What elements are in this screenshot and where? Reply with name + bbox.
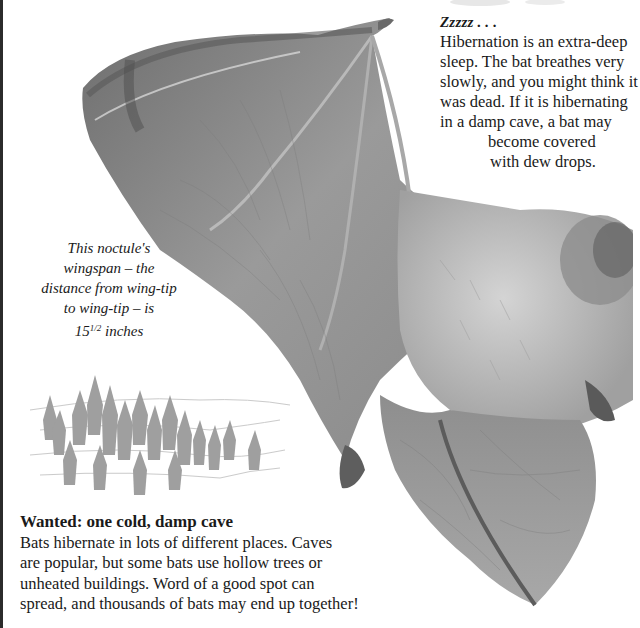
hibernation-line: Hibernation is an extra-deep — [440, 32, 640, 52]
caption-line: distance from wing-tip — [24, 278, 194, 298]
caption-line: wingspan – the — [24, 258, 194, 278]
caption-measure: 151/2 inches — [24, 318, 194, 341]
top-cropped-illustration — [450, 0, 565, 6]
hibernation-line: slowly, and you might think it — [440, 72, 640, 92]
cave-line: are popular, but some bats use hollow tr… — [20, 553, 440, 574]
measure-whole: 15 — [75, 323, 90, 339]
hibernating-bats-illustration — [30, 375, 290, 495]
hibernation-heading: Zzzzz . . . — [440, 12, 640, 32]
cave-line: spread, and thousands of bats may end up… — [20, 594, 440, 615]
caption-line: This noctule's — [24, 238, 194, 258]
hibernation-text-block: Zzzzz . . . Hibernation is an extra-deep… — [440, 12, 640, 172]
hibernation-line: sleep. The bat breathes very — [440, 52, 640, 72]
measure-fraction: 1/2 — [90, 323, 102, 333]
cave-line: Bats hibernate in lots of different plac… — [20, 533, 440, 554]
cave-heading: Wanted: one cold, damp cave — [20, 512, 440, 533]
cave-text-block: Wanted: one cold, damp cave Bats hiberna… — [20, 512, 440, 615]
bat-body — [398, 190, 634, 430]
measure-unit: inches — [105, 323, 143, 339]
cave-line: unheated buildings. Word of a good spot … — [20, 574, 440, 595]
hibernation-line: in a damp cave, a bat may — [440, 112, 640, 132]
wingspan-caption: This noctule's wingspan – the distance f… — [24, 238, 194, 341]
hibernation-line: with dew drops. — [440, 152, 640, 172]
hibernation-line: become covered — [440, 132, 640, 152]
hibernation-line: was dead. If it is hibernating — [440, 92, 640, 112]
caption-line: to wing-tip – is — [24, 298, 194, 318]
